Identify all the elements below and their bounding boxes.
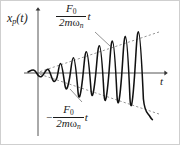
x-axis-label-text: t <box>160 75 163 87</box>
upper-formula-denominator-prefix: 2m <box>59 16 72 28</box>
lower-formula-denominator-prefix: 2m <box>56 117 69 129</box>
lower-formula-numerator-symbol: F <box>63 103 70 115</box>
lower-formula-fraction: F0 2mωn <box>53 104 83 130</box>
x-axis-label: t <box>160 76 163 87</box>
upper-formula-omega: ω <box>72 16 79 28</box>
upper-formula-numerator-symbol: F <box>66 2 73 14</box>
upper-formula-denominator: 2mωn <box>56 17 86 30</box>
upper-formula-trailing-variable: t <box>86 11 90 22</box>
lower-formula-denominator: 2mωn <box>53 118 83 131</box>
lower-formula-sign: − <box>46 112 53 123</box>
upper-formula-fraction: F0 2mωn <box>56 3 86 29</box>
lower-envelope-formula: − F0 2mωn t <box>46 104 88 130</box>
y-axis-label: xp(t) <box>7 12 28 26</box>
lower-formula-omega-subscript: n <box>77 122 81 131</box>
resonance-figure: xp(t) t F0 2mωn t − F0 2mωn t <box>0 0 180 145</box>
lower-formula-numerator: F0 <box>53 104 83 118</box>
y-axis-label-argument: (t) <box>16 11 27 25</box>
upper-envelope-formula: F0 2mωn t <box>56 3 91 29</box>
lower-formula-trailing-variable: t <box>84 112 88 123</box>
upper-formula-numerator: F0 <box>56 3 86 17</box>
lower-formula-omega: ω <box>70 117 77 129</box>
upper-formula-omega-subscript: n <box>80 21 84 30</box>
